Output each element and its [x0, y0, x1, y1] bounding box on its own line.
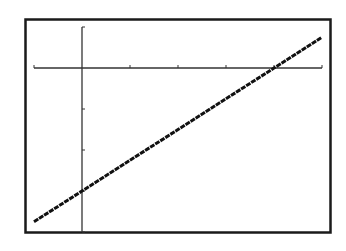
calculator-graph-screen: [0, 0, 346, 251]
screen-frame: [26, 20, 331, 233]
